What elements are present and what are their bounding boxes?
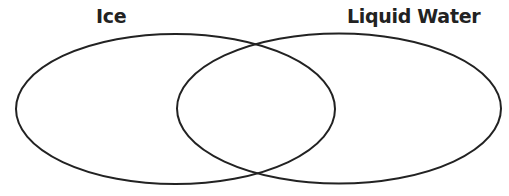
liquid-water-set-ellipse <box>177 34 501 184</box>
venn-svg <box>0 0 509 196</box>
ice-set-ellipse <box>16 34 335 184</box>
ice-set-label: Ice <box>96 6 126 26</box>
liquid-water-set-label: Liquid Water <box>347 6 480 26</box>
